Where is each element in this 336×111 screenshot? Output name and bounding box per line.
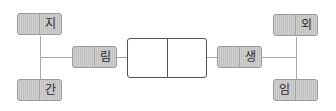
right-top-box-right-cell: 외 [296, 15, 317, 35]
right-branch-connector [262, 57, 296, 58]
right-top-box-left-cell [274, 15, 296, 35]
left-top-box-left-cell [18, 14, 40, 34]
left-bottom-word-box: 간 [17, 79, 62, 101]
right-connector-box-left-cell [218, 47, 240, 67]
center-answer-box[interactable] [127, 38, 207, 78]
left-vertical-connector [40, 36, 41, 80]
right-connector-word-box: 생 [217, 46, 262, 68]
center-answer-left-cell[interactable] [128, 39, 168, 77]
right-top-word-box: 외 [273, 14, 318, 36]
right-bottom-word-box: 임 [273, 79, 318, 101]
left-branch-connector [40, 57, 72, 58]
left-connector-word-box: 림 [72, 46, 117, 68]
right-connector-box-right-cell: 생 [240, 47, 261, 67]
left-connector-box-right-cell: 림 [95, 47, 116, 67]
center-to-right-connector [207, 57, 217, 58]
left-bottom-box-right-cell: 간 [40, 80, 61, 100]
right-bottom-box-right-cell [296, 80, 317, 100]
left-top-word-box: 지 [17, 13, 62, 35]
right-vertical-connector [296, 37, 297, 80]
left-bottom-box-left-cell [18, 80, 40, 100]
left-top-box-right-cell: 지 [40, 14, 61, 34]
right-bottom-box-left-cell: 임 [274, 80, 296, 100]
left-connector-box-left-cell [73, 47, 95, 67]
center-answer-right-cell[interactable] [168, 39, 207, 77]
left-to-center-connector [117, 57, 127, 58]
